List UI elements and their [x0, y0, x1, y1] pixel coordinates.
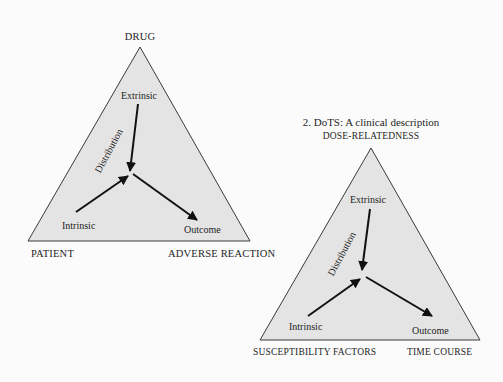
diagram1-vertex-patient: PATIENT [31, 249, 74, 260]
diagram1-vertex-adverse-reaction: ADVERSE REACTION [168, 249, 275, 260]
diagram2-vertex-dose-relatedness: DOSE-RELATEDNESS [323, 132, 420, 142]
diagram1-triangle [28, 47, 250, 241]
diagram1-vertex-drug: DRUG [125, 32, 156, 43]
diagram1-node-outcome: Outcome [184, 225, 221, 235]
diagram2-triangle [260, 148, 480, 340]
diagram2-vertex-susceptibility-factors: SUSCEPTIBILITY FACTORS [253, 348, 376, 358]
diagram2-caption: 2. DoTS: A clinical description [303, 117, 440, 128]
diagram2-vertex-time-course: TIME COURSE [407, 348, 472, 358]
diagram2-node-outcome: Outcome [412, 326, 449, 336]
diagram2-node-intrinsic: Intrinsic [289, 322, 322, 332]
diagram1-node-intrinsic: Intrinsic [62, 221, 95, 231]
diagram2-triangle-group [260, 148, 480, 340]
diagram2-node-extrinsic: Extrinsic [350, 195, 386, 205]
diagram1-triangle-group [28, 47, 250, 241]
diagram1-node-extrinsic: Extrinsic [121, 91, 157, 101]
